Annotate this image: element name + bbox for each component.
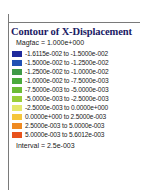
legend-band-label: 2.5000e-003 to 5.0000e-003 [23,121,104,130]
legend-band-row: -2.5000e-003 to 0.0000e+000 [11,103,145,112]
legend-band-row: -7.5000e-003 to -5.0000e-003 [11,85,145,94]
legend-band-label: -2.5000e-003 to 0.0000e+000 [23,103,108,112]
legend-band-row: -1.2500e-002 to -1.0000e-002 [11,67,145,76]
legend-band-label: -1.0000e-002 to -7.5000e-003 [23,76,108,85]
legend-color-swatch [11,77,23,85]
legend-color-swatch [11,122,23,130]
legend-band-label: 0.0000e+000 to 2.5000e-003 [23,112,106,121]
legend-magfac-label: Magfac = 1.000e+000 [11,38,145,48]
legend-color-swatch [11,50,23,58]
legend-body: Contour of X-Displacement Magfac = 1.000… [11,26,145,151]
legend-band-row: 5.0000e-003 to 5.6012e-003 [11,130,145,139]
legend-color-swatch [11,131,23,139]
legend-interval-label: Interval = 2.5e-003 [11,141,145,151]
legend-color-swatch [11,113,23,121]
legend-frame-horizontal-rule [9,22,140,23]
legend-color-swatch [11,86,23,94]
legend-band-label: -1.6115e-002 to -1.5000e-002 [23,49,108,58]
legend-band-label: 5.0000e-003 to 5.6012e-003 [23,130,104,139]
legend-band-label: -1.2500e-002 to -1.0000e-002 [23,67,108,76]
legend-band-row: -1.0000e-002 to -7.5000e-003 [11,76,145,85]
contour-legend-panel: Contour of X-Displacement Magfac = 1.000… [0,0,147,194]
legend-swatch-list: -1.6115e-002 to -1.5000e-002-1.5000e-002… [11,49,145,139]
legend-frame-vertical-rule [8,14,9,190]
legend-band-label: -7.5000e-003 to -5.0000e-003 [23,85,108,94]
legend-band-row: -1.5000e-002 to -1.2500e-002 [11,58,145,67]
legend-color-swatch [11,59,23,67]
legend-band-row: 0.0000e+000 to 2.5000e-003 [11,112,145,121]
legend-band-row: -5.0000e-003 to -2.5000e-003 [11,94,145,103]
legend-title: Contour of X-Displacement [11,26,145,38]
legend-band-row: 2.5000e-003 to 5.0000e-003 [11,121,145,130]
legend-color-swatch [11,68,23,76]
legend-band-label: -1.5000e-002 to -1.2500e-002 [23,58,108,67]
legend-color-swatch [11,104,23,112]
legend-color-swatch [11,95,23,103]
legend-band-label: -5.0000e-003 to -2.5000e-003 [23,94,108,103]
legend-band-row: -1.6115e-002 to -1.5000e-002 [11,49,145,58]
